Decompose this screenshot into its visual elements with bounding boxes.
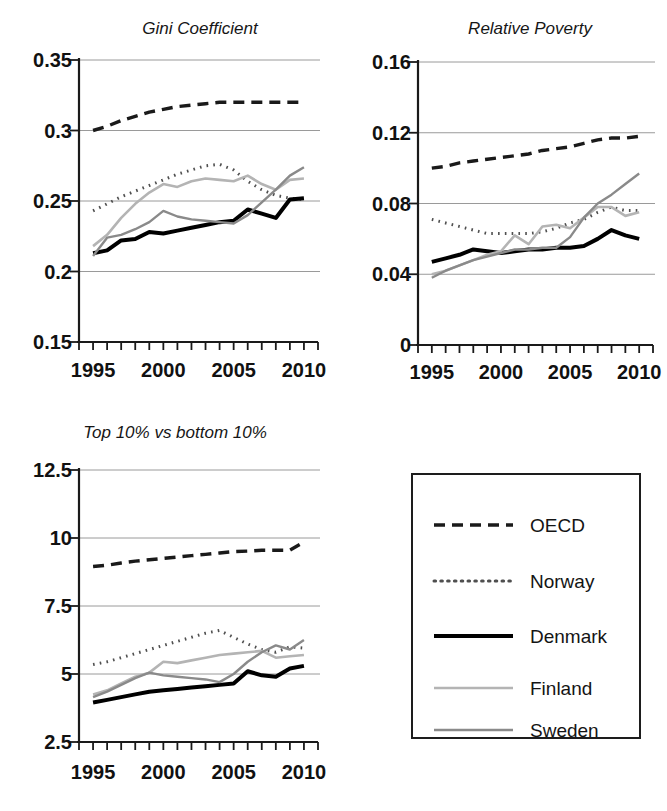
series-group-poverty [432,136,639,278]
x-tick-labels-ratio: 1995200020052010 [71,761,326,783]
chart-title-poverty: Relative Poverty [468,19,593,38]
legend-label: Denmark [530,626,608,647]
gridlines-ratio [79,470,320,674]
x-tick-labels-gini: 1995200020052010 [71,359,326,381]
y-tick-label: 0.16 [372,51,411,73]
x-tick-label: 2000 [141,761,186,783]
legend-label: Norway [530,571,595,592]
y-tick-label: 0.3 [44,120,72,142]
y-tick-label: 0.25 [33,190,72,212]
inequality-figure: Gini Coefficient 0.150.20.250.30.35 1995… [0,0,667,811]
series-line-oecd [93,542,304,566]
chart-panel-gini: Gini Coefficient 0.150.20.250.30.35 1995… [0,0,340,400]
axes-gini [70,58,318,350]
series-line-norway [432,207,639,234]
axes-poverty [409,60,653,353]
y-tick-labels-poverty: 00.040.080.120.16 [372,51,412,356]
gridlines-gini [79,60,320,272]
x-tick-label: 2010 [282,359,327,381]
y-tick-label: 0.2 [44,261,72,283]
x-tick-labels-poverty: 1995200020052010 [410,361,662,383]
legend-svg: OECDNorwayDenmarkFinlandSweden [380,440,667,780]
x-tick-label: 1995 [71,761,116,783]
y-tick-label: 5 [61,663,72,685]
x-tick-label: 1995 [71,359,116,381]
y-tick-label: 0.04 [372,263,412,285]
legend-item-finland[interactable]: Finland [434,678,592,699]
y-tick-label: 0.15 [33,331,72,353]
series-line-sweden [432,173,639,277]
x-tick-label: 2005 [211,761,256,783]
y-tick-label: 0.08 [372,193,411,215]
series-line-oecd [432,136,639,168]
series-line-finland [93,176,304,247]
x-tick-label: 2005 [548,361,593,383]
y-tick-label: 7.5 [44,595,72,617]
legend-label: Sweden [530,720,599,741]
x-tick-label: 2000 [141,359,186,381]
y-tick-labels-ratio: 2.557.51012.5 [33,459,72,753]
legend-border [412,474,640,738]
legend-item-denmark[interactable]: Denmark [434,626,608,647]
gridlines-poverty [418,62,655,274]
poverty-chart-svg: Relative Poverty 00.040.080.120.16 19952… [340,0,667,400]
x-tick-label: 1995 [410,361,455,383]
series-group-gini [93,102,304,256]
y-tick-label: 10 [50,527,72,549]
y-tick-label: 0.12 [372,122,411,144]
legend-panel: OECDNorwayDenmarkFinlandSweden [380,440,667,780]
x-tick-label: 2010 [282,761,327,783]
chart-title-ratio: Top 10% vs bottom 10% [83,423,267,442]
y-tick-label: 2.5 [44,731,72,753]
axes-ratio [70,468,318,750]
series-line-denmark [93,198,304,253]
y-tick-label: 0.35 [33,49,72,71]
y-tick-label: 0 [400,334,411,356]
legend-label: Finland [530,678,592,699]
ratio-chart-svg: Top 10% vs bottom 10% 2.557.51012.5 1995… [0,400,340,811]
gini-chart-svg: Gini Coefficient 0.150.20.250.30.35 1995… [0,0,340,400]
y-tick-labels-gini: 0.150.20.250.30.35 [33,49,72,353]
x-tick-label: 2005 [211,359,256,381]
legend-items: OECDNorwayDenmarkFinlandSweden [434,515,608,741]
chart-title-gini: Gini Coefficient [142,19,259,38]
chart-panel-ratio: Top 10% vs bottom 10% 2.557.51012.5 1995… [0,400,340,811]
series-group-ratio [93,542,304,702]
y-tick-label: 12.5 [33,459,72,481]
x-tick-label: 2010 [617,361,662,383]
legend-item-oecd[interactable]: OECD [434,515,585,536]
series-line-oecd [93,102,304,130]
chart-panel-poverty: Relative Poverty 00.040.080.120.16 19952… [340,0,667,400]
legend-item-norway[interactable]: Norway [434,571,595,592]
x-tick-label: 2000 [479,361,524,383]
legend-label: OECD [530,515,585,536]
